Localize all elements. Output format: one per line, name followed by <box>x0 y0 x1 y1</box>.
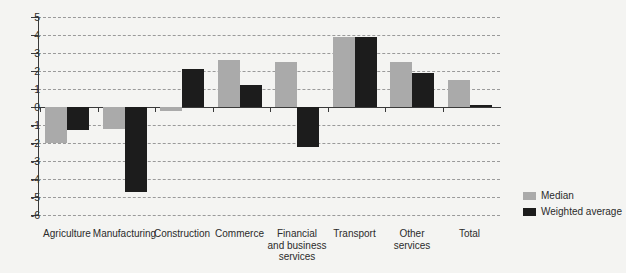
bar-weighted <box>125 107 147 192</box>
x-axis-tick <box>40 107 41 112</box>
bar-weighted <box>67 107 89 130</box>
legend-item[interactable]: Weighted average <box>523 206 622 217</box>
legend-label: Weighted average <box>541 206 622 217</box>
legend-item[interactable]: Median <box>523 190 622 201</box>
bar-median <box>333 37 355 107</box>
y-axis-tick-label: 3 <box>16 48 40 58</box>
legend-swatch-icon <box>523 192 536 200</box>
gridline <box>38 143 500 144</box>
gridline <box>38 215 500 216</box>
bar-weighted <box>355 37 377 107</box>
y-axis-tick-label: -5 <box>16 192 40 202</box>
y-axis-tick-label: 4 <box>16 30 40 40</box>
bar-median <box>160 107 182 111</box>
gridline <box>38 197 500 198</box>
gridline <box>38 161 500 162</box>
y-axis-tick-label: -3 <box>16 156 40 166</box>
bar-median <box>448 80 470 107</box>
y-axis-tick-label: 5 <box>16 12 40 22</box>
y-axis-tick-label: 1 <box>16 84 40 94</box>
x-axis-tick <box>98 107 99 112</box>
x-axis-tick <box>270 107 271 112</box>
legend-label: Median <box>541 190 574 201</box>
bar-median <box>45 107 67 143</box>
y-axis-tick-label: -6 <box>16 210 40 220</box>
legend-swatch-icon <box>523 208 536 216</box>
y-axis-tick-label: -1 <box>16 120 40 130</box>
y-axis-tick-label: 2 <box>16 66 40 76</box>
plot-area: 543210-1-2-3-4-5-6AgricultureManufacturi… <box>0 0 626 273</box>
bar-chart: 543210-1-2-3-4-5-6AgricultureManufacturi… <box>0 0 626 273</box>
x-axis-tick <box>155 107 156 112</box>
bar-median <box>218 60 240 107</box>
chart-legend: MedianWeighted average <box>523 190 622 222</box>
y-axis-tick-label: -4 <box>16 174 40 184</box>
gridline <box>38 53 500 54</box>
bar-median <box>103 107 125 129</box>
bar-weighted <box>412 73 434 107</box>
y-axis-line <box>38 17 39 215</box>
x-axis-tick <box>385 107 386 112</box>
x-axis-category-label: Total <box>428 228 512 240</box>
x-axis-tick <box>328 107 329 112</box>
y-axis-tick-label: 0 <box>16 102 40 112</box>
bar-weighted <box>182 69 204 107</box>
x-axis-tick <box>443 107 444 112</box>
bar-median <box>275 62 297 107</box>
x-axis-tick <box>213 107 214 112</box>
bar-weighted <box>297 107 319 147</box>
bar-weighted <box>470 105 492 107</box>
bar-weighted <box>240 85 262 107</box>
gridline <box>38 17 500 18</box>
y-axis-tick-label: -2 <box>16 138 40 148</box>
gridline <box>38 179 500 180</box>
gridline <box>38 35 500 36</box>
bar-median <box>390 62 412 107</box>
